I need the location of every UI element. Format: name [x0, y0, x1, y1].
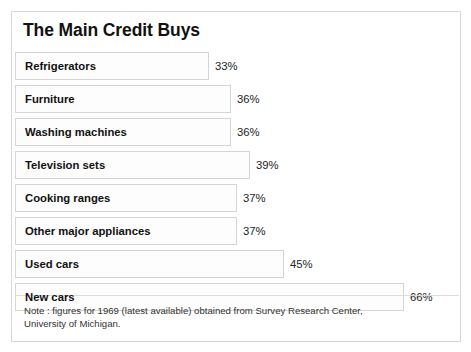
- chart-title: The Main Credit Buys: [23, 20, 200, 41]
- bar-value-label: 36%: [237, 85, 260, 113]
- bar-value-label: 36%: [237, 118, 260, 146]
- bar-row: Cooking ranges 37%: [12, 184, 462, 217]
- bar-value-label: 45%: [290, 250, 313, 278]
- bar-row: Washing machines 36%: [12, 118, 462, 151]
- bar-value-label: 37%: [243, 217, 266, 245]
- bar-chart-plot-area: Refrigerators 33% Furniture 36% Washing …: [12, 52, 462, 316]
- bar-category-label: Refrigerators: [25, 52, 96, 80]
- bar-category-label: Television sets: [25, 151, 105, 179]
- bar-row: Television sets 39%: [12, 151, 462, 184]
- bar-row: Refrigerators 33%: [12, 52, 462, 85]
- bar-value-label: 39%: [256, 151, 279, 179]
- bar-value-label: 33%: [215, 52, 238, 80]
- bar-value-label: 37%: [243, 184, 266, 212]
- note-divider: [15, 295, 459, 296]
- bar-row: Other major appliances 37%: [12, 217, 462, 250]
- bar-category-label: Used cars: [25, 250, 79, 278]
- bar-category-label: Cooking ranges: [25, 184, 110, 212]
- bar-category-label: Washing machines: [25, 118, 127, 146]
- bar-row: Furniture 36%: [12, 85, 462, 118]
- chart-note-line-1: Note : figures for 1969 (latest availabl…: [24, 304, 444, 317]
- chart-note-line-2: University of Michigan.: [24, 317, 444, 330]
- bar-category-label: New cars: [25, 283, 75, 311]
- chart-frame: The Main Credit Buys Refrigerators 33% F…: [11, 11, 461, 342]
- chart-note: Note : figures for 1969 (latest availabl…: [24, 304, 444, 330]
- bar-category-label: Furniture: [25, 85, 75, 113]
- bar-category-label: Other major appliances: [25, 217, 151, 245]
- bar-row: Used cars 45%: [12, 250, 462, 283]
